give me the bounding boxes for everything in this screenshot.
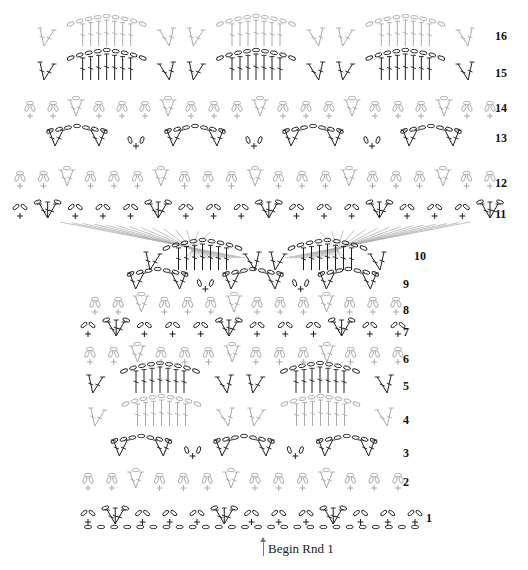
row-16 [37,14,474,46]
row-14 [24,96,496,119]
row-4 [88,394,394,426]
row-label-1: 1 [426,512,432,524]
crochet-chart [0,0,528,570]
begin-round-label: Begin Rnd 1 [268,541,334,557]
row-9 [127,267,380,292]
row-10-spokes [60,222,470,258]
row-label-3: 3 [403,447,409,459]
chart-rows [12,14,504,525]
row-7 [80,317,406,337]
begin-arrow-icon [263,541,264,556]
row-11 [12,199,504,219]
row-label-7: 7 [403,326,409,338]
row-label-11: 11 [495,208,506,220]
row-label-5: 5 [403,380,409,392]
row-label-13: 13 [495,132,507,144]
row-13 [46,124,462,149]
row-label-6: 6 [403,353,409,365]
row-label-14: 14 [495,102,507,114]
row-3 [110,434,377,459]
row-2 [82,468,404,491]
row-label-15: 15 [495,67,507,79]
row-label-9: 9 [403,278,409,290]
row-label-8: 8 [403,304,409,316]
row-8 [89,292,402,315]
row-label-16: 16 [495,30,507,42]
row-label-12: 12 [495,177,507,189]
row-1 [80,505,423,525]
foundation-chain [84,525,418,528]
row-12 [14,166,496,189]
row-label-10: 10 [414,250,426,262]
row-6 [84,342,404,365]
row-5 [86,361,393,393]
row-label-4: 4 [403,414,409,426]
row-label-2: 2 [403,476,409,488]
row-15 [37,48,474,80]
